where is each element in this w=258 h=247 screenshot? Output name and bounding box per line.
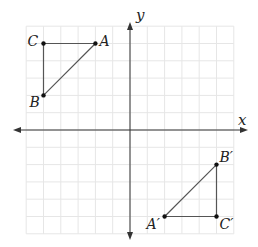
y-axis-arrow-bottom <box>127 232 133 240</box>
vertex-point <box>41 41 45 45</box>
x-axis-label: x <box>238 111 247 129</box>
vertex-label: B′ <box>219 149 234 165</box>
vertex-point <box>214 214 218 218</box>
vertex-point <box>93 41 97 45</box>
vertex-label: A <box>97 33 109 49</box>
triangles: ABCA′B′C′ <box>28 33 235 232</box>
y-axis-label: y <box>135 6 145 24</box>
vertex-point <box>41 93 45 97</box>
vertex-label: C′ <box>220 216 235 232</box>
axes: x y <box>13 6 248 240</box>
vertex-label: B <box>29 94 40 110</box>
vertex-label: C <box>28 33 39 49</box>
vertex-point <box>214 162 218 166</box>
x-axis-arrow-left <box>13 127 21 133</box>
vertex-label: A′ <box>145 216 161 232</box>
triangle-original: ABC <box>28 33 110 111</box>
triangle-outline <box>165 165 217 217</box>
vertex-point <box>162 214 166 218</box>
plot-canvas: x y ABCA′B′C′ <box>0 0 258 247</box>
triangle-outline <box>44 44 96 96</box>
coordinate-plane-diagram: x y ABCA′B′C′ <box>0 0 258 247</box>
triangle-image: A′B′C′ <box>145 149 235 232</box>
